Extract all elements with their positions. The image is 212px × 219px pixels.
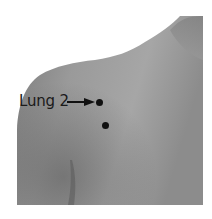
lung-2-label: Lung 2	[19, 94, 69, 109]
arrow-icon	[66, 97, 96, 107]
lung-2-point-marker	[96, 99, 103, 106]
lung-1-point-marker	[102, 122, 109, 129]
shoulder-figure: Lung 2	[0, 0, 212, 219]
